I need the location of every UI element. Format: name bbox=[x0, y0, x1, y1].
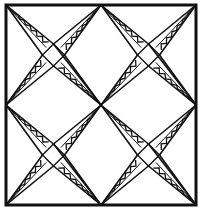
quilt-block-drawing: Quilt block line drawing bbox=[0, 0, 202, 212]
quilt-pattern-svg bbox=[0, 0, 202, 212]
